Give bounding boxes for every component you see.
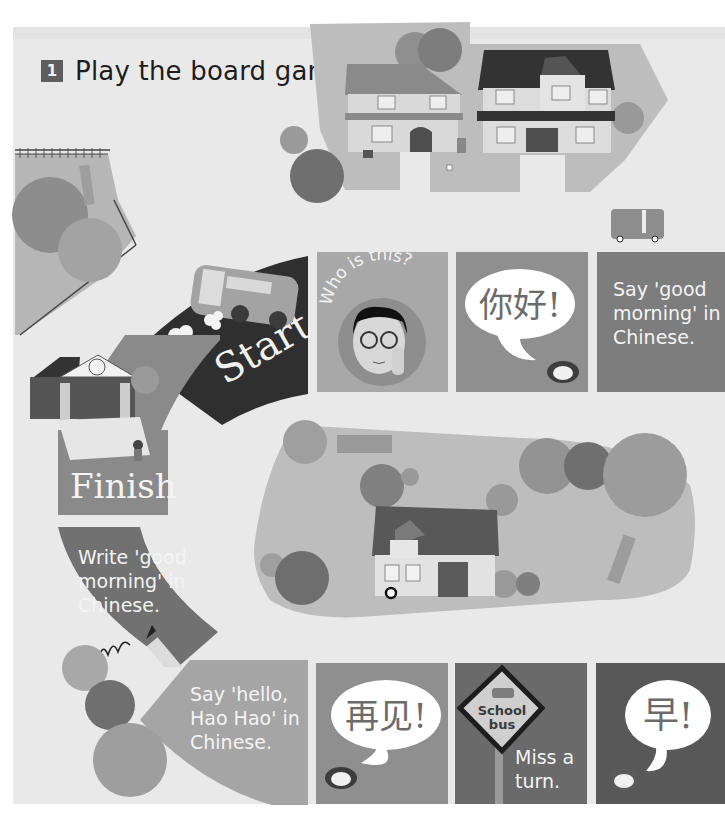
mouth-icon <box>608 769 640 791</box>
svg-text:再见!: 再见! <box>345 696 427 736</box>
svg-text:School: School <box>478 703 527 718</box>
board-game-page: 1 Play the board game. <box>0 0 725 822</box>
tile-text: Miss a turn. <box>515 745 574 793</box>
svg-text:bus: bus <box>489 717 516 732</box>
svg-text:早!: 早! <box>643 695 693 736</box>
speech-bubble-icon: 再见! <box>316 663 448 804</box>
tile-zao[interactable]: 早! <box>596 663 725 804</box>
tile-zaijian[interactable]: 再见! <box>316 663 448 804</box>
mouth-icon <box>325 767 357 789</box>
speech-bubble-icon: 早! <box>596 663 725 804</box>
tile-miss-a-turn[interactable]: School bus Miss a turn. <box>455 663 587 804</box>
